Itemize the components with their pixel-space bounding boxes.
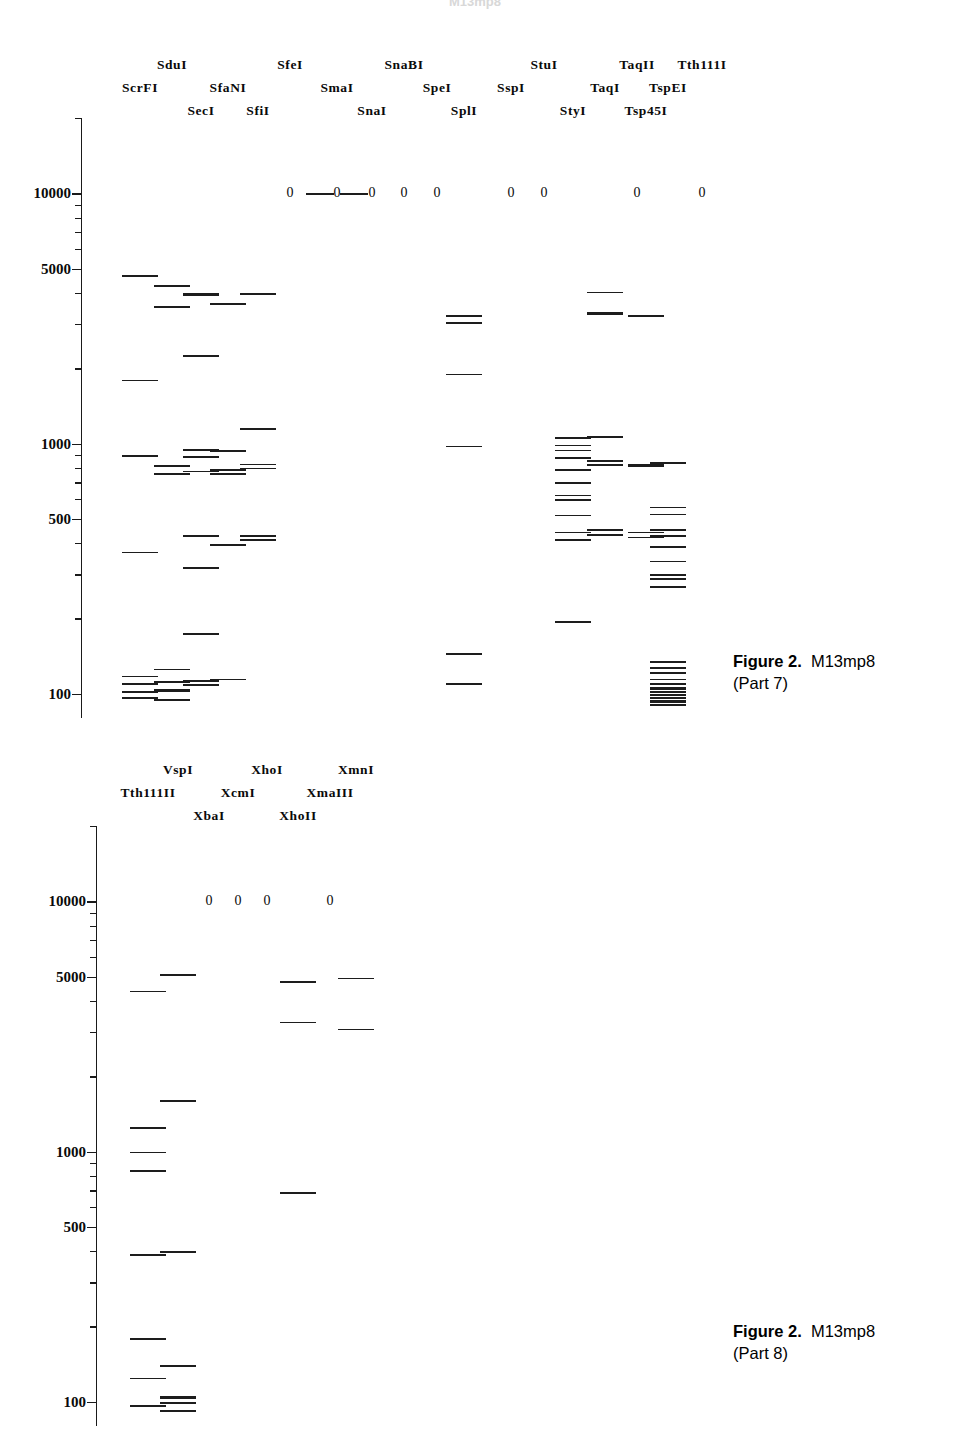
enzyme-label-seci: SecI xyxy=(187,103,214,119)
enzyme-label-tth111ii: Tth111II xyxy=(120,785,175,801)
dna-band xyxy=(446,322,482,324)
dna-band xyxy=(210,473,246,475)
dna-band xyxy=(130,1127,166,1129)
y-axis-tick xyxy=(90,957,96,958)
enzyme-label-spei: SpeI xyxy=(423,80,452,96)
y-axis-tick xyxy=(72,519,81,520)
dna-band xyxy=(280,981,316,983)
dna-band xyxy=(650,535,686,537)
dna-band xyxy=(650,694,686,696)
dna-band xyxy=(183,456,219,458)
enzyme-label-scrfi: ScrFI xyxy=(122,80,158,96)
dna-band xyxy=(446,683,482,685)
dna-band xyxy=(587,292,623,294)
dna-band xyxy=(650,700,686,702)
dna-band xyxy=(183,567,219,569)
enzyme-label-styi: StyI xyxy=(560,103,586,119)
dna-band xyxy=(280,1192,316,1194)
dna-band xyxy=(160,1402,196,1404)
dna-band xyxy=(446,653,482,655)
enzyme-label-sfani: SfaNI xyxy=(210,80,247,96)
y-axis-label: 100 xyxy=(9,685,71,702)
enzyme-label-snabi: SnaBI xyxy=(384,57,423,73)
dna-band xyxy=(628,466,664,468)
y-axis-tick xyxy=(87,1402,96,1403)
dna-band xyxy=(650,687,686,689)
dna-band xyxy=(183,684,219,686)
dna-band xyxy=(210,450,246,452)
dna-band xyxy=(160,1410,196,1412)
y-axis-tick xyxy=(75,249,81,250)
y-axis-label: 10000 xyxy=(24,893,86,910)
zero-cut-marker: 0 xyxy=(434,185,441,201)
enzyme-label-sfei: SfeI xyxy=(277,57,303,73)
y-axis-tick xyxy=(75,468,81,469)
zero-cut-marker: 0 xyxy=(264,893,271,909)
y-axis-tick xyxy=(90,826,96,827)
dna-band xyxy=(130,1338,166,1340)
dna-band xyxy=(650,514,686,516)
enzyme-label-taqii: TaqII xyxy=(619,57,655,73)
y-axis-label: 100 xyxy=(24,1393,86,1410)
dna-band xyxy=(122,275,158,277)
y-axis-label: 1000 xyxy=(9,435,71,452)
zero-extension-rule xyxy=(340,193,368,195)
y-axis-tick xyxy=(90,1076,96,1077)
enzyme-label-tspei: TspEI xyxy=(649,80,687,96)
dna-band xyxy=(122,697,158,699)
y-axis-tick xyxy=(75,543,81,544)
y-axis-label: 5000 xyxy=(24,968,86,985)
dna-band xyxy=(183,535,219,537)
enzyme-label-taqi: TaqI xyxy=(590,80,620,96)
y-axis-tick xyxy=(90,1032,96,1033)
y-axis-label: 5000 xyxy=(9,260,71,277)
enzyme-label-xhoi: XhoI xyxy=(251,762,283,778)
dna-band xyxy=(650,578,686,580)
dna-band xyxy=(122,552,158,554)
y-axis-tick xyxy=(87,1152,96,1153)
dna-band xyxy=(555,482,591,484)
enzyme-label-xcmi: XcmI xyxy=(221,785,256,801)
zero-cut-marker: 0 xyxy=(206,893,213,909)
y-axis-tick xyxy=(72,694,81,695)
dna-band xyxy=(183,633,219,635)
dna-band xyxy=(240,428,276,430)
zero-cut-marker: 0 xyxy=(334,185,341,201)
dna-band xyxy=(183,355,219,357)
dna-band xyxy=(160,1100,196,1102)
dna-band xyxy=(240,293,276,295)
y-axis-tick xyxy=(75,368,81,369)
enzyme-label-vspi: VspI xyxy=(163,762,193,778)
dna-band xyxy=(160,1396,196,1398)
dna-band xyxy=(122,683,158,685)
enzyme-label-spli: SplI xyxy=(451,103,477,119)
dna-band xyxy=(555,499,591,501)
y-axis-tick xyxy=(90,1326,96,1327)
page-top-fragment: M13mp8 xyxy=(449,0,501,9)
dna-band xyxy=(587,534,623,536)
dna-band xyxy=(555,450,591,452)
dna-band xyxy=(240,535,276,537)
dna-band xyxy=(587,464,623,466)
dna-band xyxy=(183,294,219,296)
y-axis-tick xyxy=(72,269,81,270)
y-axis-tick xyxy=(75,455,81,456)
dna-band xyxy=(210,544,246,546)
dna-band xyxy=(650,586,686,588)
y-axis-tick xyxy=(75,618,81,619)
caption-subject: M13mp8 xyxy=(811,1322,875,1340)
y-axis-tick xyxy=(90,913,96,914)
caption-figure-number: Figure 2. xyxy=(733,652,802,670)
dna-band xyxy=(154,285,190,287)
dna-band xyxy=(446,374,482,376)
dna-band xyxy=(650,462,686,464)
y-axis-line xyxy=(81,118,82,718)
dna-band xyxy=(650,546,686,548)
dna-band xyxy=(555,515,591,517)
dna-band xyxy=(587,314,623,316)
zero-cut-marker: 0 xyxy=(699,185,706,201)
dna-band xyxy=(280,1022,316,1024)
dna-band xyxy=(587,436,623,438)
y-axis-tick xyxy=(72,193,81,194)
dna-band xyxy=(650,661,686,663)
